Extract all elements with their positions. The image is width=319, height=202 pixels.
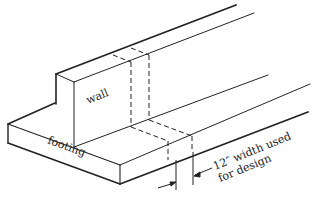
footing-label: footing — [46, 134, 87, 160]
wall-label: wall — [84, 86, 111, 107]
design-strip-dashes — [113, 48, 192, 160]
wall-block — [56, 5, 268, 147]
wall-footing-diagram: wall footing 12″ width used for design — [0, 0, 319, 202]
dimension-marks — [158, 152, 212, 190]
